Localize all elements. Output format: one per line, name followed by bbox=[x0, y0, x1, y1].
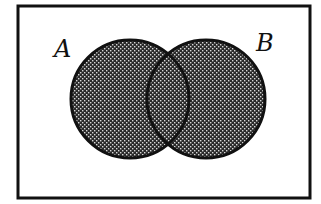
set-b-label: B bbox=[255, 29, 274, 57]
venn-diagram: A B bbox=[0, 0, 321, 204]
set-a-label: A bbox=[52, 35, 71, 63]
